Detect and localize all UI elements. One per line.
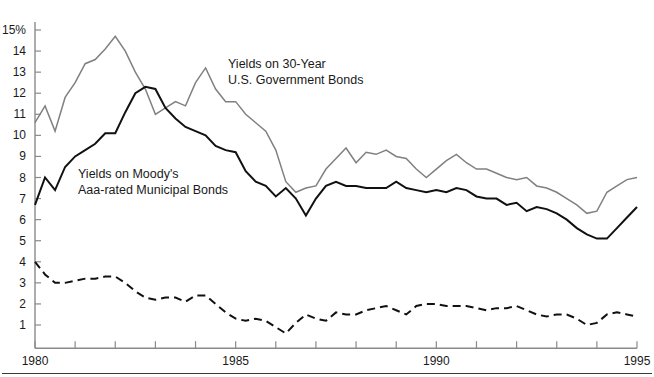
gov-bonds-label: Yields on 30-YearU.S. Government Bonds [228,57,363,87]
footer-divider [2,373,652,374]
x-tick-label-1990: 1990 [423,354,450,368]
y-axis: 123456789101112131415% [2,22,41,348]
y-tick-label-11: 11 [14,107,27,121]
y-tick-label-14: 14 [13,44,27,58]
series-path-2 [35,262,637,334]
y-tick-label-4: 4 [19,255,26,269]
chart-annotations: Yields on 30-YearU.S. Government BondsYi… [78,57,363,197]
y-tick-label-6: 6 [19,213,26,227]
x-tick-label-1985: 1985 [222,354,249,368]
x-axis: 1980198519901995 [22,341,651,368]
y-tick-label-2: 2 [19,297,26,311]
y-tick-label-3: 3 [19,276,26,290]
series-path-1 [35,87,637,239]
y-tick-label-15: 15% [2,23,26,37]
y-tick-label-13: 13 [13,65,27,79]
x-tick-label-1980: 1980 [22,354,49,368]
y-tick-label-1: 1 [19,318,26,332]
y-tick-label-5: 5 [19,234,26,248]
x-tick-label-1995: 1995 [624,354,651,368]
y-tick-label-8: 8 [19,171,26,185]
y-tick-label-9: 9 [19,149,26,163]
y-tick-label-10: 10 [13,128,27,142]
muni-bonds-label: Yields on Moody'sAaa-rated Municipal Bon… [78,167,228,197]
chart-plot-area: 123456789101112131415% 1980198519901995 … [0,0,654,377]
y-tick-label-7: 7 [19,192,26,206]
y-tick-label-12: 12 [13,86,27,100]
bond-yields-chart: 123456789101112131415% 1980198519901995 … [0,0,654,377]
